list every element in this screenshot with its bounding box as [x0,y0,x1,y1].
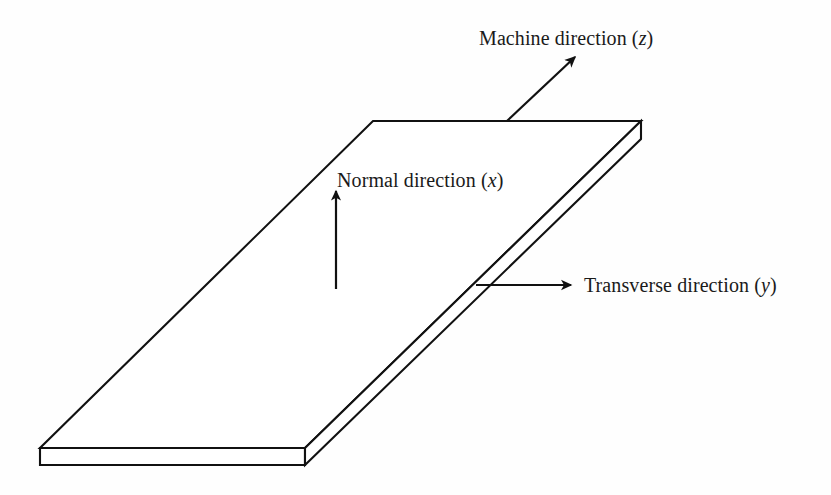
normal-direction-close-paren: ) [497,169,504,191]
transverse-direction-close-paren: ) [770,274,777,296]
normal-direction-label: Normal direction (x) [337,169,503,191]
transverse-direction-text: Transverse direction ( [584,274,761,296]
transverse-direction-symbol: y [761,274,770,296]
figure-container: Machine direction (z) Normal direction (… [0,0,831,495]
machine-direction-close-paren: ) [647,27,654,49]
machine-direction-arrow [507,57,575,121]
normal-direction-text: Normal direction ( [337,169,488,191]
machine-direction-symbol: z [639,27,647,49]
machine-direction-text: Machine direction ( [479,27,639,49]
slab-front-left-face [40,448,305,465]
machine-direction-label: Machine direction (z) [479,27,653,49]
slab-diagram [0,0,831,495]
normal-direction-symbol: x [488,169,497,191]
transverse-direction-label: Transverse direction (y) [584,274,777,296]
